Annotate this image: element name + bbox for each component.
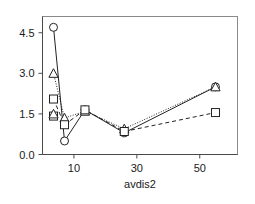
series-line-circle: [54, 27, 216, 141]
y-tick-marks: [39, 33, 43, 155]
y-tick-label: 0.0: [19, 149, 34, 161]
y-tick-label: 4.5: [19, 27, 34, 39]
plot-frame: [43, 17, 238, 155]
data-point-square: [61, 121, 69, 129]
x-tick-label: 30: [131, 162, 143, 174]
data-point-triangle: [49, 69, 58, 78]
series-markers-group: [49, 23, 220, 145]
series-line-square: [54, 99, 216, 131]
chart-container: 0.01.53.04.5 103050 avdis2: [0, 0, 255, 204]
y-tick-label-group: 0.01.53.04.5: [19, 27, 34, 161]
x-tick-marks: [74, 155, 200, 159]
scatter-line-chart: 0.01.53.04.5 103050 avdis2: [0, 0, 255, 204]
data-point-circle: [50, 23, 58, 31]
x-tick-label: 50: [194, 162, 206, 174]
data-point-square: [120, 128, 128, 136]
series-lines-group: [54, 27, 216, 141]
x-tick-label: 10: [68, 162, 80, 174]
x-axis: 103050: [43, 155, 238, 174]
data-point-circle: [61, 137, 69, 145]
y-axis: 0.01.53.04.5: [19, 17, 42, 161]
data-point-square: [81, 106, 89, 114]
x-axis-title: avdis2: [124, 178, 156, 190]
x-tick-label-group: 103050: [68, 162, 206, 174]
y-tick-label: 3.0: [19, 67, 34, 79]
data-point-square: [50, 95, 58, 103]
y-tick-label: 1.5: [19, 108, 34, 120]
data-point-square: [211, 109, 219, 117]
